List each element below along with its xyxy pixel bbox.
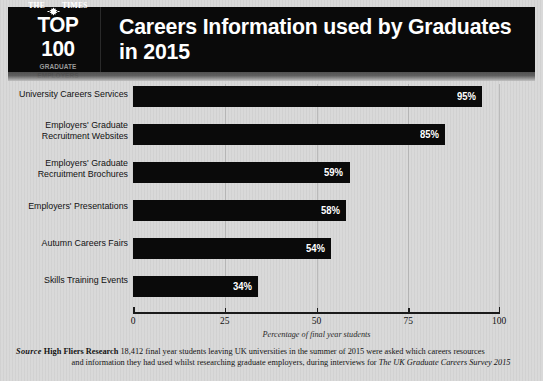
bar-value-label: 59% [324,162,343,183]
footnote-text-1: 18,412 final year students leaving UK un… [120,347,484,356]
x-axis-line [133,312,500,314]
footnote-text-2: and information they had used whilst res… [72,358,379,367]
source-footnote: Source High Fliers Research 18,412 final… [16,347,532,368]
masthead-times: TIMES [62,2,88,10]
masthead-the: THE [28,2,45,10]
bar-value-label: 95% [457,86,476,107]
x-axis-label-100: 100 [492,316,506,326]
bar-autumn-careers-fairs: 54% [133,238,331,259]
footnote-line-1: Source High Fliers Research 18,412 final… [16,347,532,358]
gridline-75 [408,84,409,312]
x-axis-tick-75 [408,308,410,312]
bar-employers-graduate-recruitment-brochures: 59% [133,162,350,183]
header-banner: THE TIMES TOP 100 GRADUATE EMPLOYERS Car… [8,7,535,72]
category-label-skills-training-events: Skills Training Events [12,275,128,286]
footnote-source-label: Source [16,347,42,356]
header-shadow-band [8,72,535,81]
footnote-survey-title: The UK Graduate Careers Survey 2015 [379,358,511,367]
x-axis-caption: Percentage of final year students [133,330,500,339]
x-axis-label-50: 50 [312,316,322,326]
category-label-employers-graduate-recruitment-websites: Employers' Graduate Recruitment Websites [12,120,128,142]
bar-value-label: 34% [233,276,252,297]
bar-employers-presentations: 58% [133,200,346,221]
category-label-employers-graduate-recruitment-brochures: Employers' Graduate Recruitment Brochure… [12,158,128,180]
x-axis-tick-25 [225,308,227,312]
x-axis-tick-100 [499,307,501,312]
x-axis-label-25: 25 [220,316,230,326]
gridline-50 [317,84,318,312]
times-crest-icon [47,2,60,11]
chart-page: THE TIMES TOP 100 GRADUATE EMPLOYERS Car… [0,0,543,381]
category-label-employers-presentations: Employers' Presentations [12,201,128,212]
x-axis-label-75: 75 [404,316,414,326]
x-axis-tick-50 [317,308,319,312]
plot-area: 95% 85% 59% 58% 54% [133,84,500,312]
footnote-organisation: High Fliers Research [44,347,119,356]
footnote-line-2: and information they had used whilst res… [16,358,532,369]
bar-university-careers-services: 95% [133,86,482,107]
bar-value-label: 85% [420,124,439,145]
bar-skills-training-events: 34% [133,276,258,297]
times-top100-logo: THE TIMES TOP 100 GRADUATE EMPLOYERS [8,7,101,72]
category-axis-labels: University Careers Services Employers' G… [0,84,128,312]
bar-employers-graduate-recruitment-websites: 85% [133,124,445,145]
times-masthead: THE TIMES [16,2,100,11]
x-axis: 0 25 50 75 100 Percentage of final year … [133,312,500,352]
category-label-autumn-careers-fairs: Autumn Careers Fairs [12,238,128,249]
x-axis-label-0: 0 [131,316,136,326]
bar-value-label: 54% [306,238,325,259]
x-axis-tick-0 [133,307,135,312]
gridline-100 [499,84,500,312]
logo-top100-text: TOP 100 [19,13,98,61]
bar-value-label: 58% [321,200,340,221]
bar-chart: University Careers Services Employers' G… [0,84,543,334]
page-title: Careers Information used by Graduates in… [103,7,533,72]
category-label-university-careers-services: University Careers Services [12,89,128,100]
